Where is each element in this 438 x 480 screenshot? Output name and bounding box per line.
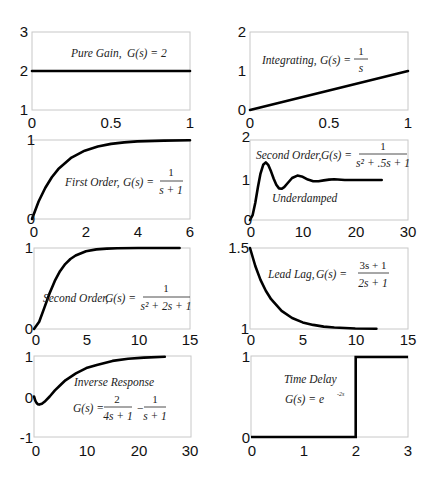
panel-inverse-response: 1 0 -1 0 10 20 30 Inverse Response G(s) … (20, 348, 199, 459)
annotation-formula: G(s) = 2 (127, 47, 167, 60)
x-tick: 20 (348, 223, 365, 240)
fraction-denominator: s + 1 (159, 184, 183, 196)
annotation-formula: G(s) = (320, 54, 351, 67)
x-tick: 15 (400, 331, 417, 348)
x-tick: 10 (348, 331, 365, 348)
y-tick: 0 (25, 389, 33, 406)
annotation-title: Second Order, (256, 149, 322, 162)
x-tick: 0 (247, 223, 255, 240)
annotation-title: Time Delay (284, 373, 338, 386)
y-tick: 1 (25, 239, 33, 256)
fraction-denominator: s² + .5s + 1 (356, 157, 410, 169)
y-tick: 1 (242, 348, 250, 365)
x-tick: 0 (32, 442, 40, 459)
x-tick: 0 (247, 331, 255, 348)
y-tick: 1 (25, 348, 33, 365)
x-tick: 2 (352, 442, 360, 459)
fraction-numerator: 1 (168, 166, 174, 178)
panel-lead-lag: 1.5 1 0 5 10 15 Lead Lag, G(s) = 3s + 1 … (228, 239, 416, 348)
x-tick: 15 (182, 331, 199, 348)
x-tick: 10 (79, 442, 96, 459)
annotation-formula: G(s) = (321, 149, 352, 162)
annotation-underdamped: Underdamped (272, 192, 338, 205)
annotation-formula: G(s) = (105, 292, 136, 305)
annotation-title: Lead Lag, (267, 268, 315, 281)
y-tick: 2 (20, 62, 28, 79)
panel-time-delay: 1 0 0 1 2 3 Time Delay G(s) = e -2s (242, 348, 413, 459)
annotation-title: First Order, (64, 176, 120, 189)
x-tick: 6 (186, 223, 194, 240)
fraction-numerator: 1 (380, 140, 386, 152)
annotation-title: Inverse Response (73, 376, 154, 389)
y-tick: 1 (238, 62, 246, 79)
fraction-denominator: s + 1 (143, 410, 167, 422)
x-tick: 30 (182, 442, 199, 459)
fraction-denominator: 4s + 1 (103, 410, 133, 422)
panel-first-order: 1 0 0 2 4 6 First Order, G(s) = 1 s + 1 (27, 131, 195, 240)
panel-pure-gain: 3 2 1 0 0.5 1 Pure Gain, G(s) = 2 (20, 23, 195, 131)
x-tick: 3 (404, 442, 412, 459)
x-tick: 0 (30, 223, 38, 240)
annotation-formula: G(s) = e (285, 393, 324, 406)
fraction-denominator: s (359, 62, 364, 74)
step-response-figure: 3 2 1 0 0.5 1 Pure Gain, G(s) = 2 2 1 0 … (0, 0, 438, 480)
x-tick: 1 (404, 114, 412, 131)
annotation-formula: G(s) = (123, 176, 154, 189)
y-tick: 0 (238, 101, 246, 118)
x-tick: 5 (299, 331, 307, 348)
plot-area (250, 32, 408, 110)
plot-area (251, 356, 408, 437)
x-tick: 0.5 (319, 114, 340, 131)
y-tick: 1 (27, 131, 35, 148)
y-tick: 2 (238, 23, 246, 40)
x-tick: 0 (32, 331, 40, 348)
plot-area (34, 356, 191, 437)
x-tick: 5 (83, 331, 91, 348)
x-tick: 10 (295, 223, 312, 240)
annotation-formula: G(s) = (73, 402, 104, 415)
fraction-numerator: 3s + 1 (360, 259, 387, 271)
x-tick: 10 (131, 331, 148, 348)
exponent: -2s (337, 391, 345, 397)
panel-integrating: 2 1 0 0 0.5 1 Integrating, G(s) = 1 s (238, 23, 413, 131)
fraction-numerator: 1 (358, 45, 364, 57)
x-tick: 30 (400, 223, 417, 240)
x-tick: 0.5 (101, 114, 122, 131)
annotation-title: Second Order, (43, 292, 109, 305)
annotation-title: Integrating, (261, 54, 317, 67)
x-tick: 4 (134, 223, 142, 240)
x-tick: 1 (300, 442, 308, 459)
annotation-formula: G(s) = (316, 268, 347, 281)
x-tick: 0 (248, 442, 256, 459)
x-tick: 20 (131, 442, 148, 459)
x-tick: 0 (28, 114, 36, 131)
fraction-denominator: 2s + 1 (358, 277, 388, 289)
x-tick: 1 (186, 114, 194, 131)
annotation-title: Pure Gain, (70, 47, 122, 60)
y-tick: 1 (242, 171, 250, 188)
y-tick: 3 (20, 23, 28, 40)
fraction-numerator: 1 (163, 282, 169, 294)
panel-second-order-critical: 1 0 0 5 10 15 Second Order, G(s) = 1 s² … (25, 239, 199, 348)
fraction-numerator: 1 (152, 393, 158, 405)
y-tick: 2 (242, 128, 250, 145)
panel-second-order-underdamped: 2 1 0 0 10 20 30 Second Order, G(s) = 1 … (242, 128, 417, 240)
fraction-numerator: 2 (114, 393, 120, 405)
y-tick: 1 (20, 101, 28, 118)
x-tick: 2 (82, 223, 90, 240)
y-tick: 1.5 (228, 239, 249, 256)
fraction-denominator: s² + 2s + 1 (141, 300, 192, 312)
